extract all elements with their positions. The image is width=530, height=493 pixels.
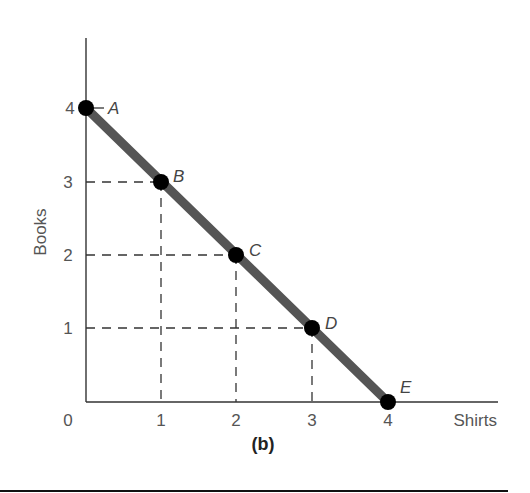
y-tick-2: 2 <box>63 246 72 265</box>
y-axis-label: Books <box>31 208 50 255</box>
label-c: C <box>249 241 262 260</box>
ppf-chart: A B C D E 4 3 2 1 0 1 2 3 4 Shirts Books… <box>0 0 530 493</box>
y-tick-4: 4 <box>65 99 74 118</box>
point-e <box>380 394 396 410</box>
point-c <box>228 247 244 263</box>
label-e: E <box>400 378 412 397</box>
label-b: B <box>173 167 184 186</box>
x-tick-3: 3 <box>307 411 316 430</box>
label-a: A <box>107 99 119 118</box>
x-tick-4: 4 <box>383 411 392 430</box>
x-axis-label: Shirts <box>454 411 497 430</box>
x-tick-2: 2 <box>231 411 240 430</box>
x-tick-0: 0 <box>63 411 72 430</box>
figure-caption: (b) <box>252 434 275 454</box>
label-d: D <box>325 314 337 333</box>
y-tick-1: 1 <box>63 319 72 338</box>
point-a <box>78 100 94 116</box>
x-tick-1: 1 <box>156 411 165 430</box>
y-tick-3: 3 <box>63 173 72 192</box>
point-b <box>153 174 169 190</box>
point-d <box>304 320 320 336</box>
